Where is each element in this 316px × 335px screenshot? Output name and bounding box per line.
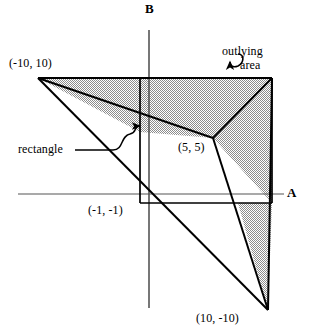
- annotation-rectangle: rectangle: [18, 143, 63, 156]
- annotation-outlying-line1: outlying: [222, 44, 263, 58]
- geometry-diagram: B A (-10, 10) (5, 5) (-1, -1) (10, -10) …: [0, 0, 316, 335]
- squiggle-arrow-icon: [113, 126, 140, 150]
- diagram-canvas: [0, 0, 316, 335]
- point-label-middle: (5, 5): [178, 141, 205, 154]
- axis-label-b: B: [145, 2, 154, 15]
- point-label-rect-corner: (-1, -1): [88, 204, 123, 217]
- point-label-top-left: (-10, 10): [9, 57, 52, 70]
- axis-label-a: A: [287, 186, 297, 199]
- point-label-bottom-right: (10, -10): [196, 312, 239, 325]
- outlying-area-lower-sliver: [238, 203, 272, 310]
- annotation-outlying-line2: area: [240, 58, 260, 72]
- rectangle-pointer-group: [75, 126, 140, 150]
